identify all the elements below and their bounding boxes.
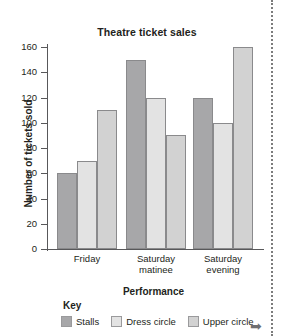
y-tick-label-0: 0 bbox=[0, 243, 37, 254]
legend-label: Stalls bbox=[76, 316, 99, 327]
legend-item: Stalls bbox=[61, 316, 99, 327]
x-tick-label: Saturdayevening bbox=[183, 253, 263, 275]
x-tick-label: Friday bbox=[47, 253, 127, 264]
bar bbox=[77, 161, 97, 249]
legend-swatch bbox=[111, 316, 122, 327]
y-tick-label-100: 100 bbox=[0, 117, 37, 128]
bar bbox=[213, 123, 233, 249]
plot-area bbox=[47, 47, 260, 249]
legend-title: Key bbox=[63, 300, 81, 311]
bar bbox=[57, 173, 77, 249]
legend-item: Dress circle bbox=[111, 316, 176, 327]
y-tick-label-40: 40 bbox=[0, 193, 37, 204]
x-axis-line bbox=[41, 249, 264, 250]
bar bbox=[233, 47, 253, 249]
legend-swatch bbox=[61, 316, 72, 327]
bar bbox=[166, 135, 186, 249]
page-dotted-divider bbox=[271, 0, 273, 336]
bar-group bbox=[126, 47, 186, 249]
x-axis-label: Performance bbox=[47, 286, 260, 297]
bar bbox=[193, 98, 213, 250]
y-tick-label-80: 80 bbox=[0, 142, 37, 153]
chart-title: Theatre ticket sales bbox=[47, 26, 247, 38]
legend: StallsDress circleUpper circle bbox=[61, 316, 266, 327]
bar bbox=[97, 110, 117, 249]
bar-group bbox=[193, 47, 253, 249]
y-tick-0 bbox=[41, 249, 47, 250]
legend-label: Dress circle bbox=[126, 316, 176, 327]
legend-swatch bbox=[188, 316, 199, 327]
right-arrow-icon: ➡ bbox=[250, 321, 262, 331]
y-tick-label-60: 60 bbox=[0, 167, 37, 178]
bar bbox=[126, 60, 146, 249]
y-tick-label-120: 120 bbox=[0, 92, 37, 103]
y-tick-label-160: 160 bbox=[0, 41, 37, 52]
bar-group bbox=[57, 47, 117, 249]
bar bbox=[146, 98, 166, 250]
legend-item: Upper circle bbox=[188, 316, 254, 327]
y-tick-label-140: 140 bbox=[0, 66, 37, 77]
y-tick-label-20: 20 bbox=[0, 218, 37, 229]
legend-label: Upper circle bbox=[203, 316, 254, 327]
